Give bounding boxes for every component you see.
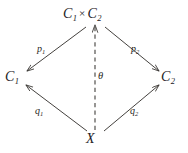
node-c2-sub: 2: [171, 76, 175, 86]
node-product-base2: C: [87, 6, 97, 21]
edge-label-p1-sub: 1: [42, 48, 45, 55]
node-x: X: [86, 132, 95, 146]
times-icon: ×: [77, 7, 87, 19]
node-c2-base: C: [161, 69, 171, 84]
edge-label-q1-sub: 1: [40, 110, 43, 117]
node-x-base: X: [86, 131, 95, 146]
edge-label-p2: p2: [131, 44, 139, 54]
edge-label-q2: q2: [130, 106, 138, 116]
node-c2: C2: [161, 70, 175, 84]
arrow-p1: [27, 27, 86, 71]
commutative-diagram: C1×C2 C1 C2 X p1 p2 q1 q2 θ: [0, 0, 188, 153]
node-c1: C1: [5, 70, 19, 84]
node-c1-base: C: [5, 69, 15, 84]
edge-label-p1: p1: [37, 44, 45, 54]
edge-label-p2-sub: 2: [136, 48, 139, 55]
node-product: C1×C2: [63, 7, 101, 21]
node-product-base: C: [63, 6, 73, 21]
edge-label-theta: θ: [98, 71, 103, 82]
node-product-sub2: 2: [97, 13, 101, 23]
edge-label-q1: q1: [35, 106, 43, 116]
edge-label-q2-sub: 2: [135, 110, 138, 117]
node-c1-sub: 1: [15, 76, 19, 86]
